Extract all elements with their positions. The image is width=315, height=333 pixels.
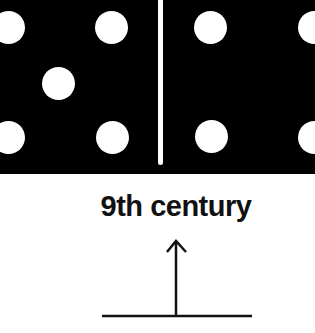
arrow-up-icon bbox=[0, 0, 315, 333]
